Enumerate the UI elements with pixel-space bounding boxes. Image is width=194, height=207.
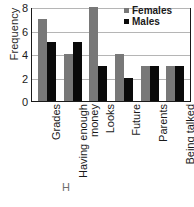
x-category-label: Parents (158, 104, 180, 200)
chart-legend: FemalesMales (124, 5, 194, 27)
x-category-label: Being talkedabout (185, 104, 194, 200)
legend-label: Males (132, 16, 160, 27)
x-axis-category-labels: GradesHaving enoughmoneyLooksFutureParen… (31, 104, 191, 204)
bar-males (47, 42, 56, 101)
y-tick-label: 8 (12, 4, 28, 12)
y-tick-label: 6 (12, 28, 28, 36)
y-tick-label: 0 (12, 98, 28, 106)
bar-females (166, 66, 175, 101)
bar-females (38, 19, 47, 101)
bar-males (175, 66, 184, 101)
bar-females (141, 66, 150, 101)
x-category-label-line1: Parents (158, 104, 169, 200)
bar-group (60, 9, 86, 101)
cropped-text-artifact-bottom: H (62, 183, 102, 207)
legend-swatch-icon (124, 19, 129, 24)
legend-entry[interactable]: Females (124, 5, 194, 16)
bar-males (98, 66, 107, 101)
x-category-label-line1: Future (131, 104, 142, 200)
bar-chart: Frequency 02468 FemalesMales GradesHavin… (0, 0, 194, 207)
y-tick-label: 4 (12, 51, 28, 59)
x-category-label: Looks (105, 104, 127, 200)
x-category-label-line1: Looks (105, 104, 116, 200)
bar-females (89, 7, 98, 101)
x-category-label-line1: Grades (51, 104, 62, 200)
x-category-label: Future (131, 104, 153, 200)
legend-swatch-icon (124, 8, 129, 13)
bar-males (124, 78, 133, 102)
bar-group (85, 9, 111, 101)
x-category-label-line1: Being talked (185, 104, 194, 200)
legend-entry[interactable]: Males (124, 16, 194, 27)
bar-group (34, 9, 60, 101)
y-axis-tick-labels: 02468 (12, 8, 28, 102)
bar-males (150, 66, 159, 101)
bar-females (64, 54, 73, 101)
bar-males (73, 42, 82, 101)
legend-label: Females (132, 5, 172, 16)
bar-females (115, 54, 124, 101)
y-tick-label: 2 (12, 75, 28, 83)
